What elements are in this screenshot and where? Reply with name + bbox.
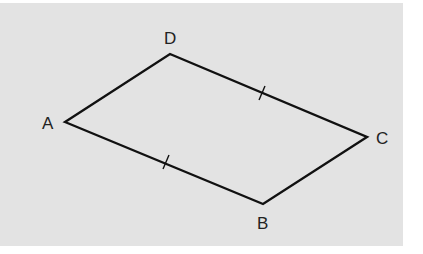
parallelogram-abcd (65, 54, 367, 204)
vertex-label-b: B (257, 214, 268, 233)
vertex-label-c: C (376, 129, 388, 148)
vertex-label-d: D (164, 29, 176, 48)
vertex-label-a: A (42, 114, 54, 133)
parallelogram-diagram: A D C B (0, 0, 423, 254)
